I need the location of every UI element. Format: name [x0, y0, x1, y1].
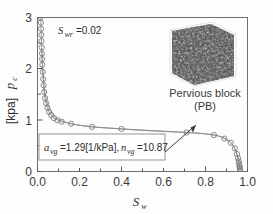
- x-axis-title-subscript: w: [141, 202, 147, 211]
- swr-subscript: wr: [65, 30, 74, 39]
- n-vg-value: =10.87: [137, 142, 168, 153]
- inset-caption-line2: (PB): [194, 100, 216, 112]
- y-axis-title-subscript: c: [10, 77, 19, 81]
- a-vg-symbol: a: [44, 142, 49, 153]
- pervious-block-inset: Pervious block (PB): [169, 22, 241, 112]
- x-tick-label: 0.8: [197, 175, 214, 189]
- inset-caption-line1: Pervious block: [169, 87, 241, 99]
- n-vg-symbol: n: [121, 142, 126, 153]
- y-axis-title-unit: [kpa]: [4, 98, 18, 124]
- a-vg-subscript: vg: [50, 147, 58, 156]
- swrc-figure: 0.0 0.2 0.4 0.6 0.8 1.0 0 1 2 3 S w p c …: [0, 0, 273, 214]
- a-vg-value: =1.29[1/kPa],: [60, 142, 119, 153]
- x-tick-label: 0.4: [113, 175, 130, 189]
- x-tick-label: 1.0: [239, 175, 256, 189]
- y-tick-label: 3: [25, 11, 32, 25]
- x-tick-label: 0.6: [155, 175, 172, 189]
- y-tick-label: 0: [25, 165, 32, 179]
- y-tick-label: 1: [25, 114, 32, 128]
- x-axis-title-symbol: S: [133, 194, 140, 209]
- x-tick-label: 0.2: [71, 175, 88, 189]
- porous-medium-render: [172, 24, 234, 85]
- y-axis-title-symbol: p: [2, 82, 17, 90]
- swr-symbol: S: [58, 25, 64, 36]
- y-tick-label: 2: [25, 62, 32, 76]
- n-vg-subscript: vg: [127, 147, 135, 156]
- y-axis-title: p c [kpa]: [2, 77, 19, 124]
- swr-value: =0.02: [76, 25, 102, 36]
